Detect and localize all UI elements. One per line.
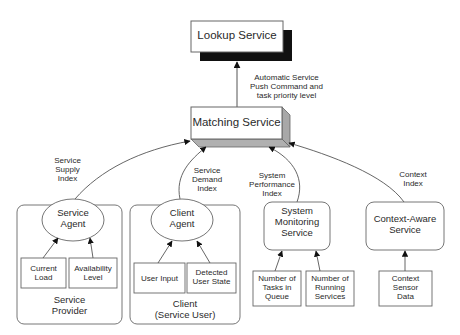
label-line: Agent (151, 219, 213, 230)
label-line: Context (379, 274, 432, 283)
edge-label-line: Index (45, 174, 90, 183)
label-line: Provider (17, 306, 122, 317)
supply-index-label: Service Supply Index (45, 156, 90, 184)
matching-bevel-bottom (191, 139, 290, 147)
edge-label-line: Supply (45, 165, 90, 174)
running-services-label: Number of Running Services (306, 274, 354, 302)
context-index-label: Context Index (388, 170, 438, 188)
client-group-label: Client (Service User) (130, 299, 240, 321)
context-edge (289, 143, 404, 202)
label-line: Availability (69, 264, 117, 273)
edge-label-line: Performance (244, 180, 300, 189)
push-label-line: Push Command and (244, 82, 329, 91)
label-line: Number of (253, 274, 301, 283)
label-line: (Service User) (130, 310, 240, 321)
current-load-arrow (43, 238, 58, 258)
edge-label-line: Service (45, 156, 90, 165)
client-agent-label: Client Agent (151, 208, 213, 230)
edge-label-line: Index (182, 184, 232, 193)
service-provider-label: Service Provider (17, 295, 122, 317)
label-line: Level (69, 273, 117, 282)
system-monitoring-label: System Monitoring Service (264, 206, 330, 239)
service-agent-label: Service Agent (42, 208, 104, 230)
tasks-in-queue-label: Number of Tasks in Queue (253, 274, 301, 302)
edge-label-line: Demand (182, 175, 232, 184)
label-line: Service (366, 225, 444, 236)
context-aware-label: Context-Aware Service (366, 214, 444, 236)
user-input-arrow (158, 241, 172, 263)
detected-user-state-label: Detected User State (187, 268, 236, 286)
label-line: Load (21, 273, 66, 282)
availability-level-label: Availability Level (69, 264, 117, 282)
label-line: Data (379, 292, 432, 301)
edge-label-line: System (244, 171, 300, 180)
push-label-line: task priority level (244, 91, 329, 100)
push-label: Automatic Service Push Command and task … (244, 73, 329, 101)
running-arrow (316, 251, 320, 271)
user-state-arrow (197, 241, 210, 263)
push-label-line: Automatic Service (244, 73, 329, 82)
supply-edge (75, 141, 190, 199)
label-line: User Input (134, 274, 185, 283)
label-line: Sensor (379, 283, 432, 292)
current-load-label: Current Load (21, 264, 66, 282)
label-line: Service (264, 228, 330, 239)
edge-label-line: Context (388, 170, 438, 179)
edge-label-line: Service (182, 166, 232, 175)
label-line: Agent (42, 219, 104, 230)
label-line: Current (21, 264, 66, 273)
user-input-label: User Input (134, 274, 185, 283)
demand-index-label: Service Demand Index (182, 166, 232, 194)
label-line: Running (306, 283, 354, 292)
matching-service-label: Matching Service (191, 116, 282, 129)
lookup-service-label: Lookup Service (191, 29, 283, 42)
label-line: Services (306, 292, 354, 301)
label-line: Queue (253, 292, 301, 301)
label-line: Number of (306, 274, 354, 283)
tasks-arrow (275, 251, 282, 271)
edge-label-line: Index (388, 179, 438, 188)
availability-arrow (90, 238, 93, 258)
label-line: User State (187, 277, 236, 286)
performance-index-label: System Performance Index (244, 171, 300, 199)
edge-label-line: Index (244, 189, 300, 198)
label-line: Detected (187, 268, 236, 277)
label-line: Tasks in (253, 283, 301, 292)
context-sensor-label: Context Sensor Data (379, 274, 432, 302)
